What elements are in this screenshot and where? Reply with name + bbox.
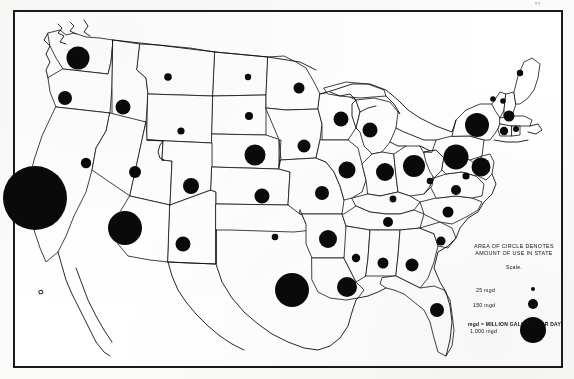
state-symbol-oregon: Oregon — 300 mgd (58, 91, 72, 105)
state-symbol-washington: Washington — 800 mgd (67, 47, 90, 70)
state-symbol-new-hampshire: New Hampshire — 45 mgd (500, 98, 506, 104)
state-symbol-michigan: Michigan — 340 mgd (363, 123, 378, 138)
state-symbol-minnesota: Minnesota — 190 mgd (294, 83, 305, 94)
state-symbol-louisiana: Louisiana — 600 mgd (337, 277, 357, 297)
state-symbol-west-virginia: West Virginia — 65 mgd (427, 178, 434, 185)
state-symbol-new-mexico: New Mexico — 340 mgd (176, 237, 191, 252)
state-symbol-tennessee: Tennessee — 160 mgd (383, 217, 393, 227)
state-symbol-massachusetts: Massachusetts — 190 mgd (504, 111, 515, 122)
legend-heading-line-2: AMOUNT OF USE IN STATE (468, 250, 560, 257)
state-symbol-ohio: Ohio — 740 mgd (403, 155, 425, 177)
state-symbol-maine: Maine — 60 mgd (517, 70, 523, 76)
legend-circle-150 (528, 299, 538, 309)
state-symbol-arizona: Arizona — 1800 mgd (108, 211, 142, 245)
legend-circle-25 (531, 287, 535, 291)
state-symbol-kansas: Kansas — 340 mgd (255, 189, 270, 204)
state-symbol-rhode-island: Rhode Island — 50 mgd (513, 126, 519, 132)
state-symbol-illinois: Illinois — 430 mgd (339, 162, 356, 179)
state-symbol-arkansas: Arkansas — 490 mgd (319, 230, 337, 248)
state-symbol-south-carolina: South Carolina — 130 mgd (437, 237, 446, 246)
legend-footnote: mgd = MILLION GALLONS PER DAY (468, 321, 560, 327)
state-symbol-georgia: Georgia — 260 mgd (406, 259, 419, 272)
state-symbol-wyoming: Wyoming — 80 mgd (177, 127, 184, 134)
state-symbol-idaho: Idaho — 340 mgd (116, 100, 131, 115)
state-symbol-north-carolina: North Carolina — 190 mgd (443, 207, 454, 218)
state-symbol-maryland: Maryland — 80 mgd (462, 172, 469, 179)
state-symbol-utah: Utah — 220 mgd (129, 166, 141, 178)
state-symbol-new-york: New York — 880 mgd (465, 113, 489, 137)
state-symbol-nevada: Nevada — 170 mgd (81, 158, 91, 168)
legend-scale-label: Scale. (468, 264, 560, 270)
state-symbol-missouri: Missouri — 300 mgd (315, 186, 329, 200)
state-symbol-california: California — 6000 mgd (3, 166, 67, 230)
state-symbol-texas: Texas — 1800 mgd (275, 273, 309, 307)
state-symbol-oklahoma: Oklahoma — 65 mgd (272, 234, 279, 241)
state-symbol-mississippi: Mississippi — 110 mgd (352, 254, 360, 262)
state-symbol-wisconsin: Wisconsin — 340 mgd (334, 112, 349, 127)
state-symbol-alabama: Alabama — 190 mgd (378, 258, 389, 269)
state-symbol-south-dakota: South Dakota — 95 mgd (245, 112, 253, 120)
legend-label-25: 25 mgd (476, 287, 495, 293)
legend-label-1000: 1,000 mgd (470, 328, 497, 334)
state-symbol-florida: Florida — 300 mgd (430, 303, 444, 317)
state-symbol-indiana: Indiana — 490 mgd (376, 163, 394, 181)
state-symbol-colorado: Colorado — 390 mgd (183, 178, 199, 194)
state-symbol-montana: Montana — 90 mgd (164, 73, 172, 81)
state-symbol-connecticut: Connecticut — 110 mgd (500, 127, 508, 135)
map-legend: AREA OF CIRCLE DENOTES AMOUNT OF USE IN … (468, 243, 560, 343)
state-symbol-virginia: Virginia — 160 mgd (451, 185, 461, 195)
state-symbol-north-dakota: North Dakota — 60 mgd (245, 74, 251, 80)
state-symbol-pennsylvania: Pennsylvania — 950 mgd (444, 145, 469, 170)
page-canvas: '' (0, 0, 574, 379)
state-symbol-iowa: Iowa — 260 mgd (298, 140, 311, 153)
state-symbol-vermont: Vermont — 45 mgd (490, 96, 496, 102)
legend-label-150: 150 mgd (473, 302, 495, 308)
state-symbol-kentucky: Kentucky — 70 mgd (390, 196, 397, 203)
legend-heading-line-1: AREA OF CIRCLE DENOTES (468, 243, 560, 250)
state-symbol-new-jersey: New Jersey — 540 mgd (472, 158, 491, 177)
state-symbol-nebraska: Nebraska — 680 mgd (245, 145, 266, 166)
